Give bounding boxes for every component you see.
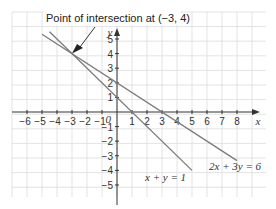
x-tick-label: 1 xyxy=(129,116,135,127)
origin-label: 0 xyxy=(106,113,112,125)
y-axis-arrow-icon xyxy=(114,28,120,36)
y-tick-label: −4 xyxy=(102,165,114,176)
x-tick-label: −2 xyxy=(79,116,91,127)
y-tick-label: −2 xyxy=(102,136,114,147)
x-axis-label: x xyxy=(255,115,261,127)
x-tick-label: 8 xyxy=(234,116,240,127)
graph-svg: −6−5−4−3−2−11234567854321−1−2−3−4−50xyx … xyxy=(0,0,276,209)
y-tick-label: −5 xyxy=(102,180,114,191)
x-tick-label: −4 xyxy=(49,116,61,127)
x-tick-label: 5 xyxy=(189,116,195,127)
y-tick-label: 1 xyxy=(107,92,113,103)
y-axis-label: y xyxy=(107,26,113,38)
annotation-title: Point of intersection at (−3, 4) xyxy=(46,12,190,24)
graph-figure: −6−5−4−3−2−11234567854321−1−2−3−4−50xyx … xyxy=(0,0,276,209)
x-tick-label: 3 xyxy=(159,116,165,127)
x-tick-label: 7 xyxy=(219,116,225,127)
x-tick-label: −5 xyxy=(34,116,46,127)
annotation-arrow xyxy=(80,27,95,47)
y-tick-label: −3 xyxy=(102,151,114,162)
line-label-x-plus-y: x + y = 1 xyxy=(144,171,186,183)
y-tick-label: 3 xyxy=(107,63,113,74)
x-tick-label: −3 xyxy=(64,116,76,127)
line-2x-plus-3y-eq-6 xyxy=(42,34,237,160)
x-tick-label: −6 xyxy=(19,116,31,127)
y-tick-label: 4 xyxy=(107,49,113,60)
line-label-2x-plus-3y: 2x + 3y = 6 xyxy=(209,160,262,172)
x-tick-label: 6 xyxy=(204,116,210,127)
